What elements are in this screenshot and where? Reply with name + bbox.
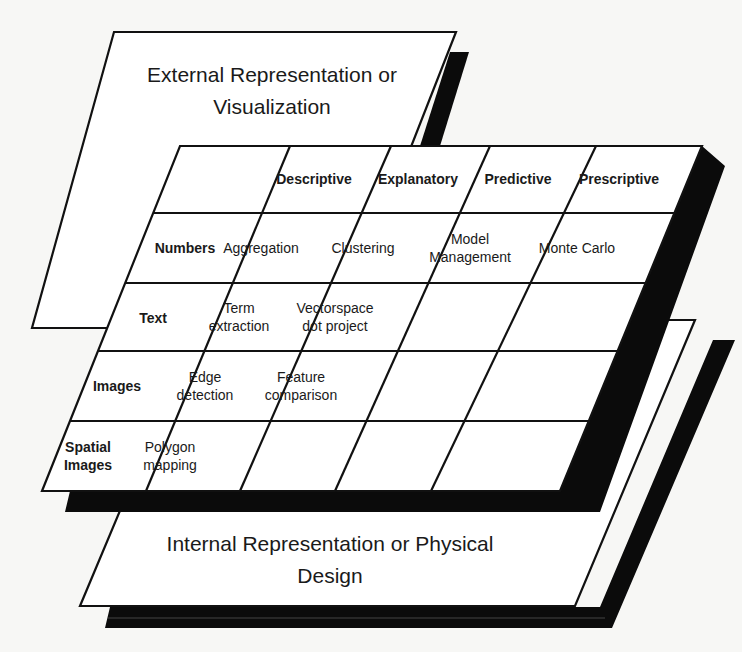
bottom-layer-title-line2: Design bbox=[297, 564, 362, 587]
top-layer-title-line2: Visualization bbox=[213, 95, 331, 118]
bottom-layer-title-line1: Internal Representation or Physical bbox=[167, 532, 494, 555]
col-header-explanatory: Explanatory bbox=[378, 171, 458, 187]
layered-representation-diagram: Internal Representation or Physical Desi… bbox=[0, 0, 742, 652]
cell-text-descriptive-l1: Term bbox=[223, 300, 254, 316]
row-header-spatial-images-l1: Spatial bbox=[65, 439, 111, 455]
cell-spatial-descriptive-l1: Polygon bbox=[145, 439, 196, 455]
cell-images-explanatory-l2: comparison bbox=[265, 387, 337, 403]
row-header-spatial-images-l2: Images bbox=[64, 457, 112, 473]
cell-text-explanatory-l2: dot project bbox=[302, 318, 367, 334]
cell-numbers-predictive-l1: Model bbox=[451, 231, 489, 247]
cell-numbers-prescriptive: Monte Carlo bbox=[539, 240, 615, 256]
col-header-prescriptive: Prescriptive bbox=[579, 171, 659, 187]
cell-spatial-descriptive-l2: mapping bbox=[143, 457, 197, 473]
cell-text-explanatory-l1: Vectorspace bbox=[296, 300, 373, 316]
col-header-descriptive: Descriptive bbox=[276, 171, 352, 187]
cell-numbers-explanatory: Clustering bbox=[331, 240, 394, 256]
cell-text-descriptive-l2: extraction bbox=[209, 318, 270, 334]
col-header-predictive: Predictive bbox=[485, 171, 552, 187]
cell-images-explanatory-l1: Feature bbox=[277, 369, 325, 385]
top-layer-title-line1: External Representation or bbox=[147, 63, 397, 86]
diagram-canvas: Internal Representation or Physical Desi… bbox=[0, 0, 742, 652]
cell-numbers-predictive-l2: Management bbox=[429, 249, 511, 265]
cell-numbers-descriptive: Aggregation bbox=[223, 240, 299, 256]
row-header-text: Text bbox=[139, 310, 167, 326]
cell-images-descriptive-l2: detection bbox=[177, 387, 234, 403]
cell-images-descriptive-l1: Edge bbox=[189, 369, 222, 385]
row-header-images: Images bbox=[93, 378, 141, 394]
row-header-numbers: Numbers bbox=[155, 240, 216, 256]
